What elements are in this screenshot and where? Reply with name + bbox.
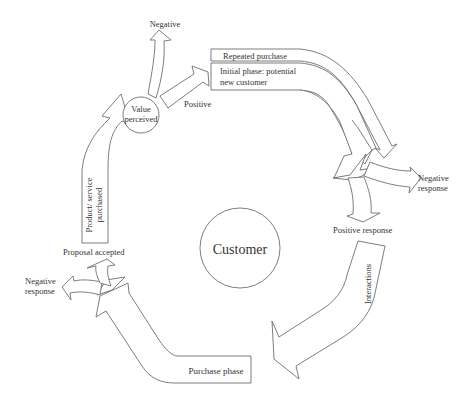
negative-response-right-label-2: response bbox=[418, 183, 448, 193]
negative-response-right-label-1: Negative bbox=[418, 173, 449, 183]
positive-top-label: Positive bbox=[184, 99, 212, 109]
negative-response-left-label-2: response bbox=[25, 286, 55, 296]
negative-response-left-arrow bbox=[62, 276, 102, 300]
customer-cycle-diagram: Customer Negative response Positive resp… bbox=[0, 0, 471, 411]
negative-response-left-label-1: Negative bbox=[25, 276, 56, 286]
product-purchased-label-1: Product/ service bbox=[84, 177, 94, 232]
initial-phase-label-1: Initial phase: potential bbox=[220, 66, 297, 76]
negative-top-arrow bbox=[148, 30, 171, 98]
purchase-phase-label: Purchase phase bbox=[188, 366, 243, 376]
interactions-arrow bbox=[272, 241, 385, 379]
repeated-purchase-label: Repeated purchase bbox=[223, 51, 287, 61]
interactions-label: Interactions bbox=[363, 264, 373, 304]
positive-response-arrow bbox=[347, 177, 380, 222]
positive-response-label: Positive response bbox=[333, 225, 392, 235]
product-purchased-label-2: purchased bbox=[94, 187, 104, 222]
negative-top-label: Negative bbox=[150, 19, 181, 29]
value-perceived-label-1: Value bbox=[131, 104, 151, 114]
value-perceived-label-2: perceived bbox=[124, 114, 158, 124]
proposal-accepted-label: Proposal accepted bbox=[63, 247, 125, 257]
negative-response-right-arrow bbox=[364, 162, 421, 193]
customer-label: Customer bbox=[213, 242, 268, 257]
initial-phase-label-2: new customer bbox=[220, 77, 268, 87]
